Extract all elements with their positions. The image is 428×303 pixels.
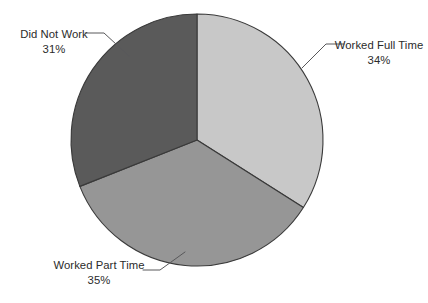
pie-label-worked-full-time: Worked Full Time 34% — [333, 38, 425, 68]
pie-label-worked-full-time-percent: 34% — [333, 53, 425, 68]
pie-chart-figure: Did Not Work 31% Worked Full Time 34% Wo… — [0, 0, 428, 303]
pie-label-did-not-work: Did Not Work 31% — [8, 27, 100, 57]
pie-label-did-not-work-percent: 31% — [8, 42, 100, 57]
pie-label-worked-part-time-name: Worked Part Time — [44, 258, 154, 273]
pie-label-worked-part-time-percent: 35% — [44, 273, 154, 288]
pie-label-worked-full-time-name: Worked Full Time — [333, 38, 425, 53]
pie-label-did-not-work-name: Did Not Work — [8, 27, 100, 42]
pie-label-worked-part-time: Worked Part Time 35% — [44, 258, 154, 288]
